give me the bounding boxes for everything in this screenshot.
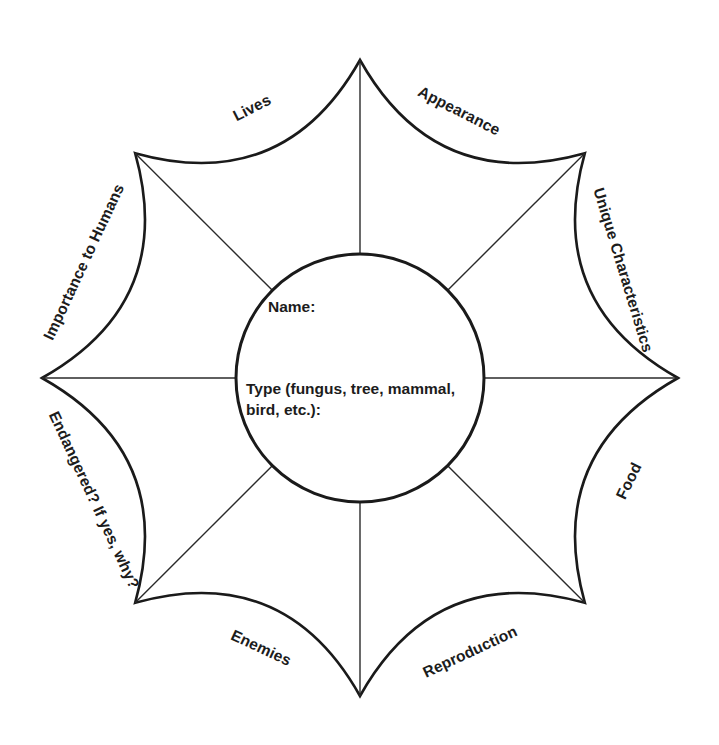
flower-diagram-svg <box>0 0 719 745</box>
center-type-label: Type (fungus, tree, mammal, bird, etc.): <box>246 379 491 421</box>
center-name-label: Name: <box>268 297 315 318</box>
center-circle <box>236 254 484 502</box>
species-flower-worksheet: Name: Type (fungus, tree, mammal, bird, … <box>0 0 719 745</box>
